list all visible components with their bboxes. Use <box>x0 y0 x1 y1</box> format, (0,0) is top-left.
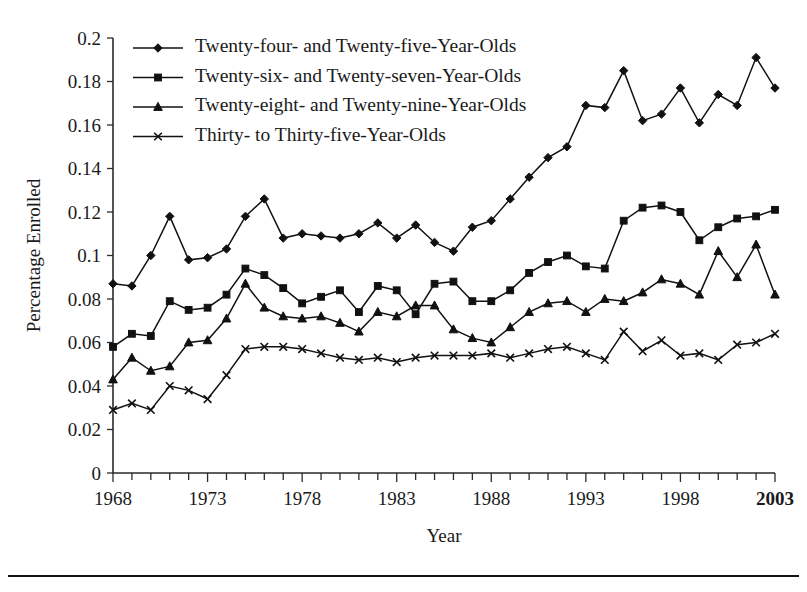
data-point-square <box>715 224 722 231</box>
data-point-diamond <box>184 256 192 264</box>
legend-item-3[interactable]: Twenty-eight- and Twenty-nine-Year-Olds <box>133 94 526 115</box>
legend-label: Twenty-four- and Twenty-five-Year-Olds <box>195 35 516 56</box>
data-point-square <box>469 298 476 305</box>
data-point-square <box>545 259 552 266</box>
data-point-diamond <box>601 103 609 111</box>
data-point-triangle <box>582 307 591 315</box>
data-point-triangle <box>638 288 647 296</box>
y-axis-tick-label: 0.06 <box>68 332 101 353</box>
data-point-square <box>753 213 760 220</box>
x-axis-tick-label: 1968 <box>94 488 132 509</box>
data-point-triangle <box>563 297 572 305</box>
y-axis-tick-label: 0 <box>92 463 102 484</box>
legend-item-1[interactable]: Twenty-four- and Twenty-five-Year-Olds <box>133 35 516 56</box>
data-point-diamond <box>203 253 211 261</box>
data-point-diamond <box>166 212 174 220</box>
data-point-diamond <box>771 84 779 92</box>
data-point-square <box>155 74 162 81</box>
y-axis-tick-label: 0.14 <box>68 158 102 179</box>
data-point-triangle <box>752 240 761 248</box>
data-point-x <box>620 328 628 336</box>
x-axis-title: Year <box>426 525 462 546</box>
data-point-x <box>771 330 779 338</box>
data-point-square <box>450 278 457 285</box>
legend-item-2[interactable]: Twenty-six- and Twenty-seven-Year-Olds <box>133 65 521 86</box>
data-point-square <box>147 333 154 340</box>
data-point-diamond <box>336 234 344 242</box>
data-point-square <box>299 300 306 307</box>
data-point-diamond <box>733 101 741 109</box>
data-point-triangle <box>771 290 780 298</box>
data-point-diamond <box>222 245 230 253</box>
series-2 <box>110 202 779 350</box>
data-point-square <box>223 291 230 298</box>
y-axis-tick-label: 0.08 <box>68 289 101 310</box>
data-point-x <box>714 356 722 364</box>
data-point-square <box>110 343 117 350</box>
series-line <box>113 245 775 380</box>
x-axis-tick-label: 2003 <box>756 488 794 509</box>
data-point-x <box>204 395 212 403</box>
x-axis-tick-label: 1988 <box>472 488 510 509</box>
data-point-triangle <box>374 307 383 315</box>
data-point-triangle <box>128 353 137 361</box>
data-point-square <box>412 311 419 318</box>
x-axis-tick-label: 1978 <box>283 488 321 509</box>
data-point-diamond <box>154 44 162 52</box>
data-point-triangle <box>695 290 704 298</box>
series-1 <box>109 53 779 290</box>
data-point-diamond <box>638 116 646 124</box>
y-axis-tick-label: 0.16 <box>68 115 101 136</box>
data-point-diamond <box>619 66 627 74</box>
data-point-x <box>147 406 155 414</box>
data-point-square <box>242 265 249 272</box>
data-point-square <box>374 283 381 290</box>
data-point-square <box>488 298 495 305</box>
data-point-square <box>696 237 703 244</box>
data-point-square <box>166 298 173 305</box>
data-point-triangle <box>241 279 250 287</box>
y-axis-tick-label: 0.2 <box>77 28 101 49</box>
data-point-square <box>129 330 136 337</box>
legend-label: Thirty- to Thirty-five-Year-Olds <box>195 124 446 145</box>
data-point-x <box>639 347 647 355</box>
y-axis-tick-label: 0.1 <box>77 245 101 266</box>
data-point-diamond <box>298 230 306 238</box>
line-chart: 00.020.040.060.080.10.120.140.160.180.21… <box>0 0 807 592</box>
data-point-triangle <box>657 275 666 283</box>
data-point-diamond <box>752 53 760 61</box>
data-point-square <box>526 270 533 277</box>
data-point-square <box>658 202 665 209</box>
data-point-diamond <box>128 282 136 290</box>
data-point-diamond <box>695 119 703 127</box>
data-point-square <box>620 217 627 224</box>
legend-item-4[interactable]: Thirty- to Thirty-five-Year-Olds <box>133 124 446 145</box>
data-point-square <box>772 206 779 213</box>
data-point-diamond <box>355 230 363 238</box>
y-axis-tick-label: 0.12 <box>68 202 101 223</box>
data-point-square <box>318 293 325 300</box>
data-point-square <box>185 306 192 313</box>
data-point-square <box>507 287 514 294</box>
x-axis-tick-label: 1983 <box>378 488 416 509</box>
data-point-triangle <box>317 312 326 320</box>
data-point-x <box>658 337 666 345</box>
series-line <box>113 58 775 286</box>
data-point-diamond <box>317 232 325 240</box>
series-line <box>113 205 775 346</box>
data-point-diamond <box>279 234 287 242</box>
data-point-diamond <box>563 143 571 151</box>
data-point-diamond <box>147 251 155 259</box>
data-point-square <box>261 272 268 279</box>
chart-figure: 00.020.040.060.080.10.120.140.160.180.21… <box>0 0 807 592</box>
data-point-square <box>337 287 344 294</box>
data-point-x <box>128 400 136 408</box>
y-axis-tick-label: 0.04 <box>68 376 102 397</box>
data-point-x <box>601 356 609 364</box>
data-point-triangle <box>714 247 723 255</box>
data-point-square <box>582 263 589 270</box>
data-point-square <box>639 204 646 211</box>
data-point-square <box>355 309 362 316</box>
legend-label: Twenty-six- and Twenty-seven-Year-Olds <box>195 65 521 86</box>
data-point-x <box>582 350 590 358</box>
